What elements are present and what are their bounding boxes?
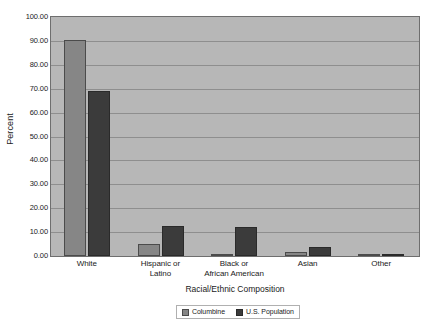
bar-group xyxy=(198,17,272,256)
x-axis-tick-label-line: African American xyxy=(197,269,271,279)
bar xyxy=(358,254,380,256)
y-axis-tick-label: 80.00 xyxy=(30,61,48,69)
bar-group xyxy=(125,17,199,256)
y-axis-tick-label: 10.00 xyxy=(30,228,48,236)
y-axis-tick-label: 70.00 xyxy=(30,85,48,93)
legend-label: Columbine xyxy=(192,308,225,316)
x-axis-title: Racial/Ethnic Composition xyxy=(50,284,420,294)
y-axis-tick-label: 20.00 xyxy=(30,204,48,212)
bar xyxy=(64,40,86,256)
plot-area xyxy=(50,16,420,257)
bar xyxy=(235,227,257,256)
bar xyxy=(309,247,331,256)
y-axis-tick-label: 100.00 xyxy=(26,13,48,21)
bars-layer xyxy=(51,17,419,256)
x-axis-tick-label-line: Latino xyxy=(124,269,198,279)
x-axis-tick-label-line: Asian xyxy=(271,259,345,269)
legend-swatch xyxy=(236,309,243,316)
bar xyxy=(88,91,110,256)
bar-chart-figure: Percent 0.0010.0020.0030.0040.0050.0060.… xyxy=(0,0,431,329)
x-axis-tick-label-line: White xyxy=(50,259,124,269)
x-axis-tick-label: Asian xyxy=(271,259,345,269)
x-axis-tick-labels: WhiteHispanic orLatinoBlack orAfrican Am… xyxy=(50,259,420,285)
bar xyxy=(211,254,233,256)
chart-legend: ColumbineU.S. Population xyxy=(176,305,300,319)
y-axis-tick-label: 90.00 xyxy=(30,37,48,45)
legend-entry: U.S. Population xyxy=(236,308,294,316)
x-axis-tick-label: Other xyxy=(344,259,418,269)
bar-group xyxy=(51,17,125,256)
bar xyxy=(162,226,184,256)
x-axis-tick-label: Black orAfrican American xyxy=(197,259,271,278)
legend-entry: Columbine xyxy=(182,308,225,316)
bar xyxy=(138,244,160,256)
y-axis-tick-label: 0.00 xyxy=(34,252,48,260)
bar-group xyxy=(272,17,346,256)
y-axis-tick-labels: 0.0010.0020.0030.0040.0050.0060.0070.008… xyxy=(14,16,50,257)
legend-label: U.S. Population xyxy=(246,308,294,316)
legend-swatch xyxy=(182,309,189,316)
bar xyxy=(382,254,404,256)
x-axis-tick-label-line: Black or xyxy=(197,259,271,269)
x-axis-tick-label: White xyxy=(50,259,124,269)
y-axis-tick-label: 30.00 xyxy=(30,180,48,188)
y-axis-tick-label: 40.00 xyxy=(30,156,48,164)
x-axis-tick-label-line: Hispanic or xyxy=(124,259,198,269)
bar-group xyxy=(345,17,419,256)
x-axis-tick-label-line: Other xyxy=(344,259,418,269)
bar xyxy=(285,252,307,256)
y-axis-tick-label: 60.00 xyxy=(30,109,48,117)
x-axis-tick-label: Hispanic orLatino xyxy=(124,259,198,278)
y-axis-tick-label: 50.00 xyxy=(30,133,48,141)
